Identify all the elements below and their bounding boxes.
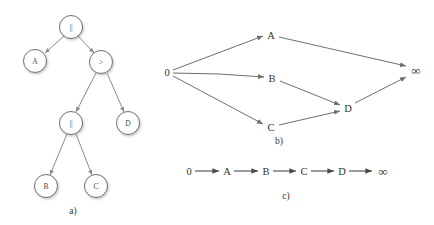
panel-c: 0 A B C D ∞ c) [186, 164, 387, 203]
tree-node-or2-label: || [69, 119, 72, 128]
dag-edge-B-D [280, 81, 340, 105]
tree-node-a-label: A [32, 57, 38, 66]
chain-node-infinity[interactable]: ∞ [378, 164, 387, 179]
figure-canvas: || A > || D B [0, 0, 434, 225]
panel-c-caption: c) [282, 191, 289, 202]
tree-edge-or2-B [50, 134, 67, 175]
tree-node-c[interactable]: C [85, 175, 108, 198]
dag-edge-A-inf [279, 37, 406, 66]
panel-a-edges [45, 36, 124, 175]
panel-b: 0 A B C D ∞ b) [164, 30, 420, 148]
tree-node-b-label: B [43, 182, 48, 191]
tree-node-gt-label: > [99, 58, 104, 67]
panel-b-caption: b) [275, 136, 283, 147]
dag-node-infinity[interactable]: ∞ [411, 63, 420, 78]
tree-node-gt[interactable]: > [90, 51, 113, 74]
dag-edge-zero-A [173, 36, 263, 70]
dag-node-d[interactable]: D [344, 103, 352, 114]
chain-node-c[interactable]: C [300, 166, 307, 177]
chain-node-a[interactable]: A [223, 166, 231, 177]
dag-node-a[interactable]: A [267, 30, 275, 41]
figure-svg: || A > || D B [0, 0, 434, 225]
tree-edge-gt-D [107, 73, 124, 112]
tree-node-b[interactable]: B [35, 175, 58, 198]
tree-node-root[interactable]: || [60, 16, 83, 39]
tree-node-d-label: D [125, 119, 131, 128]
tree-edge-root-gt [78, 36, 94, 53]
dag-edge-zero-B [173, 73, 264, 77]
panel-a-caption: a) [69, 206, 76, 217]
panel-b-edges [173, 36, 406, 125]
dag-edge-zero-C [173, 76, 263, 124]
tree-edge-or2-C [76, 134, 92, 175]
dag-node-b[interactable]: B [268, 73, 275, 84]
chain-node-zero[interactable]: 0 [186, 166, 191, 177]
chain-node-d[interactable]: D [338, 166, 346, 177]
tree-edge-gt-or2 [76, 73, 96, 112]
tree-node-d[interactable]: D [117, 112, 140, 135]
dag-node-zero[interactable]: 0 [164, 67, 169, 78]
dag-edge-C-D [279, 111, 340, 125]
tree-node-root-label: || [69, 23, 72, 32]
tree-node-c-label: C [93, 182, 98, 191]
dag-node-c[interactable]: C [267, 122, 274, 133]
panel-a: || A > || D B [24, 16, 140, 218]
chain-node-b[interactable]: B [262, 166, 269, 177]
tree-node-a[interactable]: A [24, 50, 47, 73]
tree-node-or2[interactable]: || [60, 112, 83, 135]
dag-edge-D-inf [355, 77, 406, 103]
tree-edge-root-A [45, 36, 64, 53]
